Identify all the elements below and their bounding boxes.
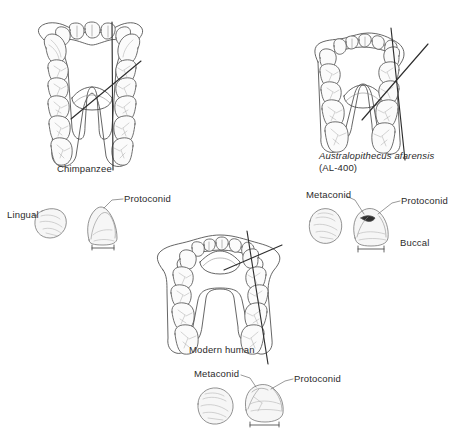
protoconid-label-chimp: Protoconid <box>124 193 171 204</box>
protoconid-leader-line-afarensis <box>378 201 400 214</box>
metaconid-label-human: Metaconid <box>194 368 239 379</box>
metaconid-label-afarensis: Metaconid <box>306 189 351 200</box>
chimpanzee-tooth-detail-drawing <box>33 199 123 250</box>
chimpanzee-label: Chimpanzee <box>57 163 112 174</box>
metaconid-leader-line-human <box>241 375 256 387</box>
dental-arcade-comparison-figure: Chimpanzee Australopithecus afarensis (A… <box>0 0 456 433</box>
buccal-label: Buccal <box>400 237 429 248</box>
afarensis-species-label: Australopithecus afarensis <box>319 150 434 161</box>
protoconid-leader-line-chimp <box>104 199 123 208</box>
chimpanzee-mandible-drawing <box>38 22 142 170</box>
protoconid-leader-line-human <box>271 379 293 389</box>
protoconid-label-human: Protoconid <box>294 373 341 384</box>
protoconid-label-afarensis: Protoconid <box>401 195 448 206</box>
afarensis-specimen-label: (AL-400) <box>319 162 357 173</box>
afarensis-tooth-detail-drawing <box>309 196 400 252</box>
modern-human-label: Modern human <box>189 344 255 355</box>
afarensis-mandible-drawing <box>315 28 428 160</box>
lingual-label: Lingual <box>7 209 39 220</box>
human-tooth-detail-drawing <box>198 375 293 427</box>
